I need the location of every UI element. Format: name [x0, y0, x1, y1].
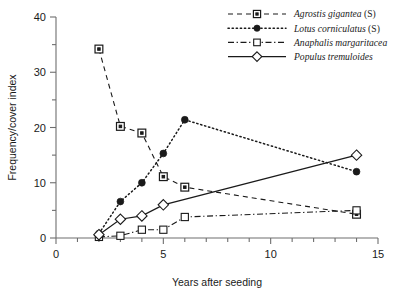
marker-open-square: [160, 226, 167, 233]
legend-label-species: Lotus corniculatus: [293, 23, 366, 34]
x-axis-tick-label: 15: [372, 248, 384, 260]
legend-label-suffix: (S): [366, 23, 380, 35]
legend-label-suffix: (S): [362, 8, 376, 20]
marker-open-square: [117, 232, 124, 239]
series-2: [96, 116, 360, 237]
chart-container: 051015010203040Years after seedingFreque…: [0, 0, 396, 293]
x-axis-title: Years after seeding: [172, 276, 262, 288]
marker-open-square: [181, 213, 188, 220]
marker-square-center-dot: [256, 13, 258, 15]
legend-item[interactable]: Populus tremuloides: [228, 51, 373, 62]
series-1: [95, 45, 360, 218]
x-axis-tick-label: 0: [53, 248, 59, 260]
legend-label-species: Populus tremuloides: [293, 51, 373, 62]
frequency-cover-index-line-chart: 051015010203040Years after seedingFreque…: [0, 0, 396, 293]
legend: Agrostis gigantea (S)Lotus corniculatus …: [228, 8, 387, 62]
marker-open-diamond: [351, 150, 361, 160]
y-axis-tick-label: 10: [34, 177, 46, 189]
marker-open-square: [254, 39, 261, 46]
legend-label: Lotus corniculatus (S): [293, 23, 380, 35]
marker-square-center-dot: [162, 175, 165, 178]
legend-label-species: Anaphalis margaritacea: [293, 37, 387, 48]
legend-label-species: Agrostis gigantea: [293, 8, 362, 19]
y-axis-tick-label: 30: [34, 66, 46, 78]
legend-item[interactable]: Agrostis gigantea (S): [228, 8, 376, 20]
marker-open-diamond: [158, 200, 168, 210]
y-axis-tick-label: 40: [34, 11, 46, 23]
series-line: [99, 155, 357, 235]
legend-item[interactable]: Anaphalis margaritacea: [228, 37, 387, 48]
marker-open-diamond: [115, 214, 125, 224]
series-4: [94, 150, 362, 240]
marker-square-center-dot: [119, 125, 122, 128]
legend-label: Populus tremuloides: [293, 51, 373, 62]
marker-square-center-dot: [98, 48, 101, 51]
marker-filled-circle: [353, 168, 360, 175]
marker-filled-circle: [254, 25, 260, 31]
series-3: [95, 207, 360, 241]
marker-open-diamond: [252, 52, 262, 62]
marker-open-square: [353, 207, 360, 214]
x-axis-tick-label: 10: [265, 248, 277, 260]
legend-label: Agrostis gigantea (S): [293, 8, 376, 20]
y-axis-title: Frequency/cover index: [6, 74, 18, 181]
legend-label: Anaphalis margaritacea: [293, 37, 387, 48]
y-axis-tick-label: 0: [40, 232, 46, 244]
marker-open-square: [138, 226, 145, 233]
marker-square-center-dot: [184, 186, 187, 189]
legend-item[interactable]: Lotus corniculatus (S): [228, 23, 380, 35]
marker-filled-circle: [138, 179, 145, 186]
marker-filled-circle: [181, 116, 188, 123]
marker-square-center-dot: [141, 132, 144, 135]
y-axis-tick-label: 20: [34, 122, 46, 134]
marker-filled-circle: [117, 198, 124, 205]
marker-open-diamond: [137, 211, 147, 221]
marker-filled-circle: [160, 150, 167, 157]
x-axis-tick-label: 5: [160, 248, 166, 260]
